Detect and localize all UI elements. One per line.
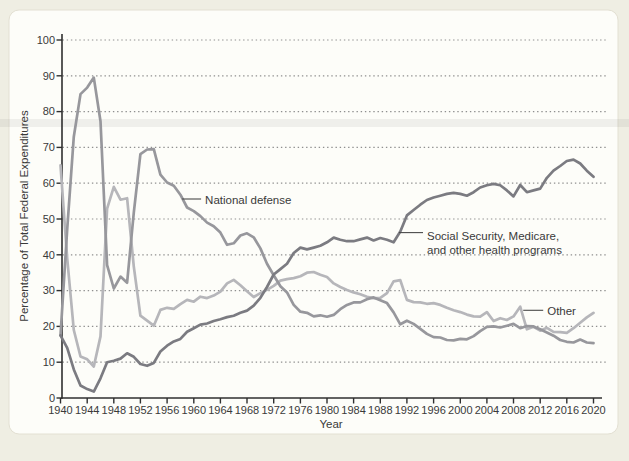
annotation-text-national-defense-label-0: National defense — [205, 194, 291, 206]
page: 1940194419481952195619601964196819721976… — [0, 0, 629, 461]
x-tick-label-1948: 1948 — [102, 404, 126, 416]
x-tick-label-1996: 1996 — [421, 404, 445, 416]
x-tick-label-1952: 1952 — [128, 404, 152, 416]
x-tick-label-2000: 2000 — [448, 404, 472, 416]
x-tick-label-1956: 1956 — [155, 404, 179, 416]
x-axis-title: Year — [319, 418, 342, 430]
x-tick-label-2012: 2012 — [528, 404, 552, 416]
x-tick-label-1940: 1940 — [48, 404, 72, 416]
x-tick-label-2004: 2004 — [475, 404, 499, 416]
x-tick-label-1976: 1976 — [288, 404, 312, 416]
y-tick-label-20: 20 — [43, 320, 55, 332]
y-tick-label-70: 70 — [43, 141, 55, 153]
annotation-text-social-security-label-0: Social Security, Medicare, — [427, 230, 559, 242]
x-tick-label-1968: 1968 — [235, 404, 259, 416]
scan-artifact-band — [0, 119, 629, 127]
y-tick-label-40: 40 — [43, 249, 55, 261]
y-tick-label-60: 60 — [43, 177, 55, 189]
y-tick-label-90: 90 — [43, 70, 55, 82]
x-tick-label-1944: 1944 — [75, 404, 99, 416]
y-tick-label-50: 50 — [43, 213, 55, 225]
x-tick-label-1988: 1988 — [368, 404, 392, 416]
chart-panel — [9, 10, 618, 434]
y-tick-label-30: 30 — [43, 284, 55, 296]
x-tick-label-1964: 1964 — [208, 404, 232, 416]
y-tick-label-80: 80 — [43, 105, 55, 117]
x-tick-label-2020: 2020 — [581, 404, 605, 416]
x-tick-label-1980: 1980 — [315, 404, 339, 416]
x-tick-label-1984: 1984 — [341, 404, 365, 416]
y-tick-label-100: 100 — [37, 34, 55, 46]
y-tick-label-0: 0 — [49, 392, 55, 404]
federal-expenditures-line-chart: 1940194419481952195619601964196819721976… — [0, 0, 629, 461]
annotation-text-other-label-0: Other — [547, 305, 576, 317]
y-tick-label-10: 10 — [43, 356, 55, 368]
x-tick-label-1992: 1992 — [395, 404, 419, 416]
x-tick-label-1960: 1960 — [182, 404, 206, 416]
annotation-text-social-security-label-1: and other health programs — [427, 244, 562, 256]
x-tick-label-1972: 1972 — [261, 404, 285, 416]
y-axis-title: Percentage of Total Federal Expenditures — [18, 110, 30, 322]
x-tick-label-2016: 2016 — [555, 404, 579, 416]
x-tick-label-2008: 2008 — [501, 404, 525, 416]
